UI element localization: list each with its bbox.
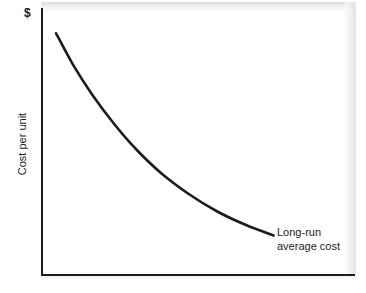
curve-annotation-line-2: average cost [277, 239, 340, 253]
curve-annotation-line-1: Long-run [277, 225, 340, 239]
curve-annotation: Long-run average cost [277, 225, 340, 253]
chart-figure: $ Cost per unit Long-run average cost [0, 0, 366, 293]
long-run-average-cost-curve-line [56, 33, 274, 235]
